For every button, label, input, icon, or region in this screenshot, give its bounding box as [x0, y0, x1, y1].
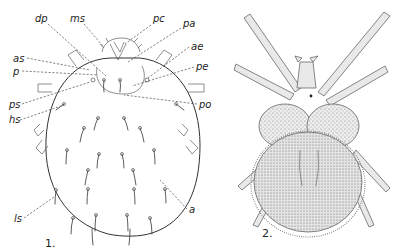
- label-ae: ae: [191, 41, 203, 52]
- label-pc: pc: [152, 13, 165, 24]
- label-p: p: [12, 66, 19, 77]
- label-as: as: [13, 53, 24, 64]
- label-ms: ms: [70, 13, 85, 24]
- label-hs: hs: [9, 114, 21, 125]
- figure-2-number: 2.: [262, 227, 273, 240]
- figure-1-number: 1.: [45, 237, 56, 250]
- label-pa: pa: [182, 18, 195, 29]
- label-a: a: [189, 204, 195, 215]
- figure-canvas: dp ms pc pa as ae p pe ps po hs a ls 1.: [0, 0, 403, 250]
- label-po: po: [198, 99, 211, 110]
- figure-2-mite: [234, 12, 390, 237]
- label-ls: ls: [14, 213, 22, 224]
- label-pe: pe: [195, 61, 209, 72]
- dorsal-setae: [55, 79, 185, 246]
- label-ps: ps: [8, 99, 21, 110]
- figure-1-mite-outline: [34, 38, 204, 245]
- label-dp: dp: [35, 13, 48, 24]
- figure-1-leader-lines: [20, 24, 197, 218]
